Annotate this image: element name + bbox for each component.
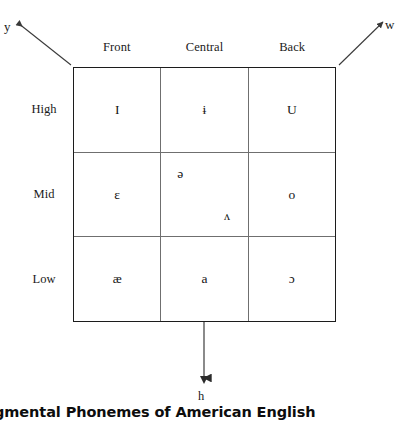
- phoneme-symbol: ə: [177, 168, 183, 182]
- figure-caption: Segmental Phonemes of American English: [0, 404, 401, 420]
- arrow-up-right-icon: [339, 22, 383, 65]
- vowel-row-low: æ a ɔ: [74, 237, 335, 321]
- vowel-cell-mid-back: o: [249, 153, 335, 237]
- phoneme-symbol: I: [115, 103, 120, 117]
- glide-label-y: y: [4, 20, 11, 33]
- phoneme-symbol: U: [287, 103, 297, 117]
- vowel-row-high: I ɨ U: [74, 68, 335, 153]
- phoneme-symbol: a: [201, 272, 207, 286]
- vowel-cell-mid-front: ɛ: [74, 153, 161, 237]
- phoneme-symbol: æ: [113, 272, 122, 286]
- phoneme-symbol: ʌ: [224, 210, 230, 222]
- vowel-cell-high-back: U: [249, 68, 335, 152]
- row-labels: High Mid Low: [18, 67, 70, 322]
- vowel-cell-high-front: I: [74, 68, 161, 152]
- phoneme-symbol: ɔ: [289, 272, 295, 286]
- glide-label-h: h: [198, 390, 204, 403]
- row-label-high: High: [18, 67, 70, 152]
- vowel-grid: I ɨ U ɛ ə ʌ o æ: [73, 67, 336, 322]
- phoneme-symbol: ɨ: [203, 103, 207, 117]
- column-headers: Front Central Back: [73, 40, 336, 55]
- row-label-mid: Mid: [18, 152, 70, 237]
- vowel-cell-low-front: æ: [74, 237, 161, 321]
- column-header-central: Central: [161, 40, 249, 55]
- h-arrow-group: [150, 322, 250, 392]
- arrow-up-left-icon: [18, 23, 71, 65]
- vowel-cell-low-central: a: [161, 237, 248, 321]
- vowel-cell-low-back: ɔ: [249, 237, 335, 321]
- column-header-back: Back: [248, 40, 336, 55]
- column-header-front: Front: [73, 40, 161, 55]
- vowel-cell-high-central: ɨ: [161, 68, 248, 152]
- vowel-row-mid: ɛ ə ʌ o: [74, 153, 335, 238]
- phoneme-symbol: ɛ: [114, 188, 120, 202]
- vowel-cell-mid-central: ə ʌ: [161, 153, 248, 237]
- row-label-low: Low: [18, 237, 70, 322]
- phoneme-symbol: o: [288, 188, 295, 202]
- vowel-chart-figure: y w Front Central Back High Mid Low: [0, 0, 401, 425]
- glide-label-w: w: [385, 18, 394, 31]
- arrow-down-head-icon: [200, 376, 208, 384]
